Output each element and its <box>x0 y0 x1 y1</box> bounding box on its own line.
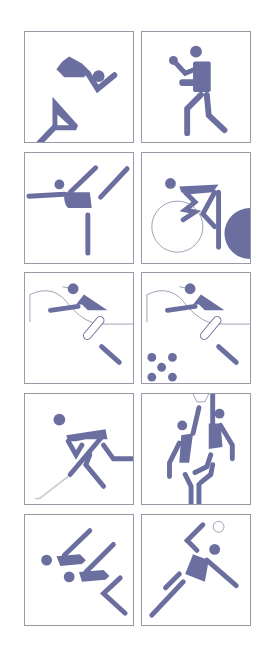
runner-icon <box>25 32 133 142</box>
tile-swimming: Swimming relay <box>24 514 134 626</box>
tile-athletics: Athletics (running) <box>24 31 134 143</box>
swimmers-icon <box>25 515 133 625</box>
tile-cycling: Cycling <box>141 152 251 264</box>
hockey-player-icon <box>25 394 133 504</box>
jumper-icon <box>25 273 133 383</box>
tile-handball: Handball <box>141 514 251 626</box>
tile-modern-pentathlon: Modern pentathlon <box>141 272 251 384</box>
pictogram-grid: Athletics (running) Boxing Gymnastics <box>0 0 263 660</box>
pentathlon-icon <box>142 273 250 383</box>
cyclist-icon <box>142 153 250 263</box>
tile-hurdles: Equestrian / Hurdle jump <box>24 272 134 384</box>
tile-gymnastics: Gymnastics <box>24 152 134 264</box>
boxer-icon <box>142 32 250 142</box>
tile-basketball: Basketball <box>141 393 251 505</box>
basketball-players-icon <box>142 394 250 504</box>
handball-player-icon <box>142 515 250 625</box>
gymnast-icon <box>25 153 133 263</box>
tile-boxing: Boxing <box>141 31 251 143</box>
tile-hockey: Field hockey <box>24 393 134 505</box>
